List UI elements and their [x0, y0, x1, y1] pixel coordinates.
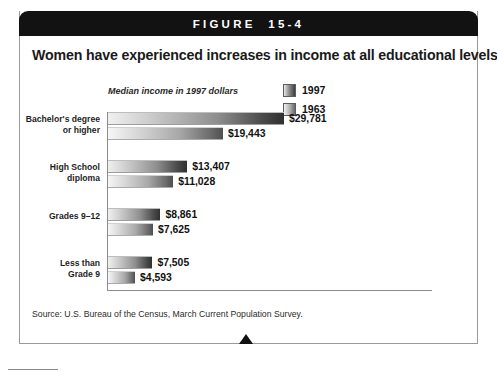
bar-value-label: $19,443	[228, 128, 266, 139]
category-label-line: Grades 9–12	[0, 211, 100, 222]
bar-value-label: $11,028	[178, 176, 215, 187]
category-label: Less than Grade 9	[0, 258, 100, 280]
figure-header-bar: FIGURE 15-4	[19, 11, 478, 36]
category-label-line: Grade 9	[0, 269, 100, 280]
bar-value-label: $7,505	[157, 257, 189, 268]
category-label-line: High School	[0, 162, 100, 173]
footnote-rule	[8, 369, 58, 370]
legend-swatch-icon-1997	[283, 84, 296, 97]
category-label-line: Less than	[0, 258, 100, 269]
bar-row: $4,593	[108, 271, 172, 284]
bar-value-label: $7,625	[158, 224, 190, 235]
bar-row: $7,625	[108, 223, 190, 236]
bar-1997	[108, 208, 160, 221]
bar-1963	[108, 127, 223, 140]
bar-row: $29,781	[108, 112, 327, 125]
bar-value-label: $29,781	[289, 113, 327, 124]
bar-value-label: $13,407	[192, 161, 230, 172]
triangle-marker-icon	[239, 334, 253, 344]
bar-1997	[108, 256, 152, 269]
figure-number-label: FIGURE 15-4	[193, 18, 304, 30]
bar-row: $13,407	[108, 160, 230, 173]
bar-1997	[108, 112, 284, 125]
axis-caption: Median income in 1997 dollars	[108, 86, 238, 96]
bar-1963	[108, 271, 135, 284]
bar-row: $8,861	[108, 208, 197, 221]
category-label: High School diploma	[0, 162, 100, 184]
category-label-line: diploma	[0, 173, 100, 184]
bar-1963	[108, 223, 153, 236]
bar-value-label: $4,593	[140, 272, 172, 283]
source-note: Source: U.S. Bureau of the Census, March…	[32, 309, 303, 319]
category-label: Bachelor's degree or higher	[0, 114, 100, 136]
bar-row: $7,505	[108, 256, 189, 269]
chart-title: Women have experienced increases in inco…	[32, 47, 467, 63]
bar-row: $19,443	[108, 127, 265, 140]
legend-label-1997: 1997	[302, 84, 325, 96]
bar-value-label: $8,861	[165, 209, 197, 220]
x-axis-line	[107, 290, 432, 291]
category-label-line: or higher	[0, 125, 100, 136]
plot-area: Bachelor's degree or higher $29,781 $19,…	[32, 112, 432, 292]
category-label-line: Bachelor's degree	[0, 114, 100, 125]
category-label: Grades 9–12	[0, 211, 100, 222]
bar-1963	[108, 175, 173, 188]
legend-item-1997: 1997	[283, 82, 325, 98]
bar-1997	[108, 160, 187, 173]
bar-row: $11,028	[108, 175, 215, 188]
